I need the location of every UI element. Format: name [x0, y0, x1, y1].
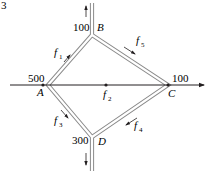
network-flow-diagram: 3 100 500 100 300 B A C D f 1 f 2 f 3 f …	[0, 0, 207, 171]
f3-arrow-icon	[61, 110, 68, 118]
node-d-value: 300	[72, 134, 89, 146]
svg-text:2: 2	[108, 95, 112, 103]
svg-text:3: 3	[59, 121, 63, 129]
node-b-label: B	[97, 21, 104, 33]
flow-label-f1: f 1	[54, 46, 63, 61]
node-a-value: 500	[28, 72, 45, 84]
f5-arrow-icon	[124, 47, 135, 54]
node-b-value: 100	[73, 21, 90, 33]
svg-text:1: 1	[59, 53, 63, 61]
flow-label-f2: f 2	[103, 88, 112, 103]
pipe-network	[48, 2, 168, 171]
figure-number: 3	[1, 0, 7, 11]
node-d-label: D	[97, 135, 106, 147]
node-a-label: A	[36, 86, 44, 98]
flow-label-f3: f 3	[54, 114, 63, 129]
svg-text:4: 4	[139, 126, 143, 134]
f2-midpoint-dot	[104, 83, 107, 86]
node-c-value: 100	[172, 72, 189, 84]
flow-label-f4: f 4	[134, 119, 143, 134]
node-c-label: C	[168, 87, 176, 99]
flow-label-f5: f 5	[136, 34, 145, 49]
svg-text:5: 5	[141, 41, 145, 49]
